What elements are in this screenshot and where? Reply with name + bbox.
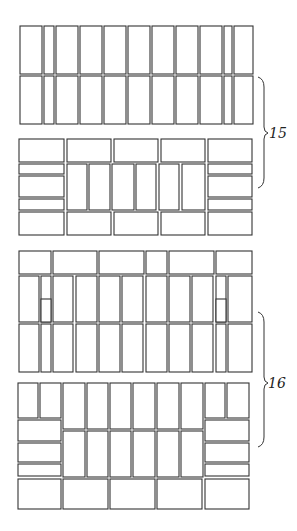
brick xyxy=(128,76,150,124)
brick xyxy=(19,212,64,235)
brick xyxy=(53,251,97,274)
brick xyxy=(87,383,108,429)
brick xyxy=(181,383,203,429)
brick xyxy=(205,383,225,418)
brick xyxy=(110,431,131,477)
brick xyxy=(157,479,202,509)
brick xyxy=(181,431,203,477)
brick xyxy=(122,276,143,322)
brick xyxy=(205,443,249,462)
brick xyxy=(200,26,222,74)
brick xyxy=(122,324,143,372)
brick xyxy=(152,26,174,74)
brick xyxy=(80,26,102,74)
brick xyxy=(208,164,252,174)
brick xyxy=(161,139,205,162)
brick xyxy=(18,383,38,418)
brick xyxy=(67,139,111,162)
brick xyxy=(216,299,226,322)
brick xyxy=(200,76,222,124)
brick xyxy=(192,276,213,322)
brick xyxy=(19,276,39,322)
brick xyxy=(67,164,87,210)
brick xyxy=(41,299,51,322)
brick xyxy=(110,479,155,509)
brick xyxy=(99,324,120,372)
brick xyxy=(208,139,252,162)
brick xyxy=(104,26,126,74)
brick xyxy=(114,139,158,162)
brick-layout xyxy=(18,26,253,509)
brick xyxy=(53,276,73,322)
label-16: 16 xyxy=(268,375,286,391)
brick-diagram: 15 16 xyxy=(0,0,297,531)
brick xyxy=(157,383,179,429)
brick xyxy=(176,76,198,124)
brick xyxy=(19,164,64,174)
brick xyxy=(19,324,39,372)
brick xyxy=(228,324,252,372)
brick xyxy=(18,420,61,441)
brick xyxy=(152,76,174,124)
brick xyxy=(20,26,42,74)
brick xyxy=(234,26,253,74)
brick xyxy=(208,199,252,210)
brick xyxy=(114,212,158,235)
brick xyxy=(224,76,232,124)
brick xyxy=(63,479,108,509)
brick xyxy=(56,76,78,124)
brick xyxy=(53,324,73,372)
brick xyxy=(20,76,42,124)
brick xyxy=(234,76,253,124)
brick xyxy=(40,383,61,418)
brick xyxy=(159,164,179,210)
brick xyxy=(224,26,232,74)
brick xyxy=(169,251,214,274)
brick xyxy=(208,176,252,197)
brick xyxy=(80,76,102,124)
brick xyxy=(228,276,252,322)
brick xyxy=(146,251,167,274)
brick xyxy=(18,464,61,476)
brick xyxy=(41,324,51,372)
brick xyxy=(157,431,179,477)
brick xyxy=(44,26,54,74)
brick xyxy=(18,479,61,509)
brick xyxy=(205,420,249,441)
brick xyxy=(44,76,54,124)
brick xyxy=(161,212,205,235)
brick xyxy=(169,324,190,372)
brick xyxy=(76,276,97,322)
brick xyxy=(19,251,51,274)
brick xyxy=(87,431,108,477)
brick xyxy=(89,164,110,210)
brick xyxy=(63,383,85,429)
brick xyxy=(18,443,61,462)
brick xyxy=(146,276,167,322)
brace-15 xyxy=(258,77,268,188)
brick xyxy=(110,383,131,429)
brick xyxy=(192,324,213,372)
brick xyxy=(136,164,156,210)
brick xyxy=(56,26,78,74)
brick xyxy=(205,479,249,509)
brick xyxy=(19,199,64,210)
brick xyxy=(146,324,167,372)
label-15: 15 xyxy=(269,125,287,141)
brick xyxy=(104,76,126,124)
brick xyxy=(176,26,198,74)
brick xyxy=(208,212,252,235)
brick xyxy=(182,164,205,210)
brick xyxy=(76,324,97,372)
brick xyxy=(63,431,85,477)
brick xyxy=(133,431,155,477)
brace-16 xyxy=(258,312,268,447)
brick xyxy=(205,464,249,476)
brick xyxy=(19,139,64,162)
brick xyxy=(169,276,190,322)
brick xyxy=(216,324,226,372)
brick xyxy=(67,212,111,235)
brick xyxy=(133,383,155,429)
brick xyxy=(19,176,64,197)
brick xyxy=(227,383,249,418)
